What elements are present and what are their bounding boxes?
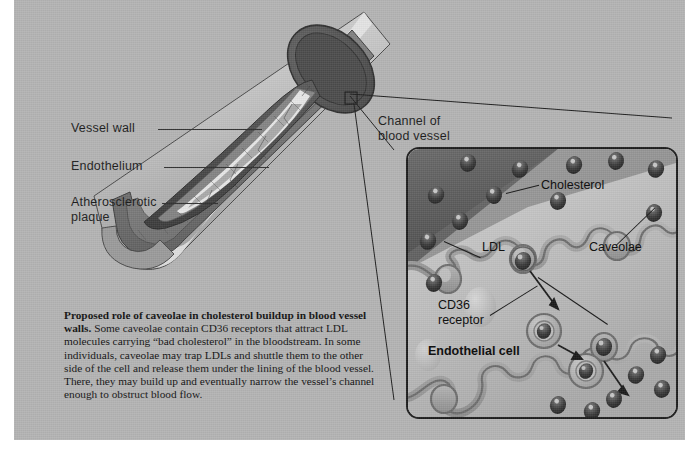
figure-panel: Vessel wall Endothelium Atherosclerotic … [14, 0, 685, 440]
label-channel-of-blood-vessel: Channel of [378, 115, 440, 128]
label-channel-of-blood-vessel-line2: blood vessel [378, 130, 450, 143]
label-ldl: LDL [482, 241, 505, 254]
label-endothelial-cell: Endothelial cell [428, 345, 520, 358]
figure-caption: Proposed role of caveolae in cholesterol… [64, 309, 376, 401]
label-atherosclerotic-plaque: Atherosclerotic [71, 196, 157, 209]
caption-body: Some caveolae contain CD36 receptors tha… [64, 322, 374, 400]
label-endothelium: Endothelium [71, 160, 143, 173]
label-atherosclerotic-plaque-line2: plaque [71, 211, 110, 224]
label-cholesterol: Cholesterol [541, 179, 604, 192]
label-caveolae: Caveolae [589, 241, 642, 254]
leader-plaque [162, 203, 218, 204]
label-cd36-receptor-line2: receptor [438, 314, 484, 327]
label-vessel-wall: Vessel wall [71, 122, 135, 135]
leader-vessel-wall [158, 129, 262, 130]
leader-endothelium [164, 167, 269, 168]
label-cd36-receptor: CD36 [438, 299, 470, 312]
blood-vessel-illustration [34, 0, 394, 300]
inset-detail-panel: LDL Cholesterol Caveolae CD36 receptor E… [406, 147, 678, 419]
